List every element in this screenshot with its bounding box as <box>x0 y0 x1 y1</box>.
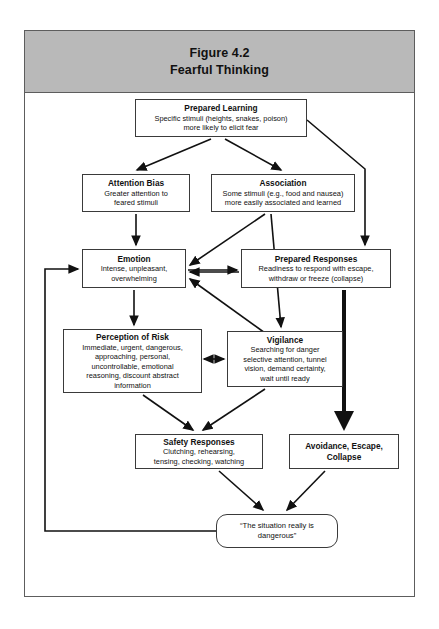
node-title: Avoidance, Escape, Collapse <box>305 441 383 462</box>
node-body: Intense, unpleasant, overwhelming <box>101 264 168 283</box>
edge-avoidance-situation <box>287 471 325 510</box>
node-perception-of-risk[interactable]: Perception of Risk Immediate, urgent, da… <box>63 329 202 393</box>
edge-situation-emotion-feedback <box>45 269 216 531</box>
node-title: Attention Bias <box>108 178 164 189</box>
node-title: Association <box>259 178 306 189</box>
edge-safety-responses-situation <box>219 471 263 510</box>
node-association[interactable]: Association Some stimuli (e.g., food and… <box>211 174 355 212</box>
edge-prepared-learning-association <box>225 139 281 170</box>
figure-frame: Figure 4.2 Fearful Thinking <box>24 30 415 597</box>
node-avoidance-escape-collapse[interactable]: Avoidance, Escape, Collapse <box>289 434 399 469</box>
node-title: Emotion <box>117 254 150 265</box>
figure-page: Figure 4.2 Fearful Thinking <box>0 0 439 629</box>
node-title: Perception of Risk <box>96 332 169 343</box>
node-prepared-responses[interactable]: Prepared Responses Readiness to respond … <box>241 249 391 288</box>
node-body: Some stimuli (e.g., food and nausea) mor… <box>223 189 344 208</box>
node-vigilance[interactable]: Vigilance Searching for danger selective… <box>227 331 343 387</box>
node-body: Specific stimuli (heights, snakes, poiso… <box>154 114 287 133</box>
edge-perception-of-risk-safety-responses <box>143 395 193 430</box>
node-prepared-learning[interactable]: Prepared Learning Specific stimuli (heig… <box>135 99 307 137</box>
figure-title: Fearful Thinking <box>170 62 269 79</box>
edge-prepared-learning-attention-bias <box>137 139 211 170</box>
edge-vigilance-safety-responses <box>203 389 265 430</box>
node-body: Searching for danger selective attention… <box>243 345 326 383</box>
node-situation-dangerous[interactable]: “The situation really is dangerous” <box>216 514 338 548</box>
node-title: Prepared Responses <box>275 254 358 265</box>
figure-number: Figure 4.2 <box>189 45 249 62</box>
flowchart-canvas: Prepared Learning Specific stimuli (heig… <box>25 93 414 597</box>
node-body: Greater attention to feared stimuli <box>104 189 168 208</box>
node-title: “The situation really is dangerous” <box>240 521 314 540</box>
node-attention-bias[interactable]: Attention Bias Greater attention to fear… <box>82 174 190 212</box>
node-safety-responses[interactable]: Safety Responses Clutching, rehearsing, … <box>135 434 263 469</box>
node-title: Safety Responses <box>163 437 234 448</box>
node-body: Immediate, urgent, dangerous, approachin… <box>82 343 183 390</box>
node-body: Readiness to respond with escape, withdr… <box>258 264 373 283</box>
node-body: Clutching, rehearsing, tensing, checking… <box>154 447 244 466</box>
figure-header: Figure 4.2 Fearful Thinking <box>25 31 414 93</box>
node-emotion[interactable]: Emotion Intense, unpleasant, overwhelmin… <box>82 249 186 288</box>
node-title: Prepared Learning <box>184 103 257 114</box>
node-title: Vigilance <box>267 335 303 346</box>
